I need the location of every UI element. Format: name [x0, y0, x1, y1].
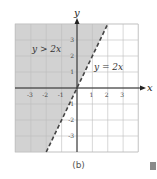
x-axis-label: x — [147, 82, 153, 93]
line-equation-label: y = 2x — [93, 62, 123, 72]
end-marker — [150, 162, 156, 170]
x-tick-label: 3 — [120, 91, 124, 98]
x-tick-label: -2 — [42, 91, 48, 98]
figure-caption: (b) — [0, 160, 157, 170]
x-tick-label: 2 — [105, 91, 109, 98]
y-axis-arrow-icon — [75, 18, 80, 24]
y-tick-label: 3 — [70, 36, 74, 43]
y-tick-label: 2 — [70, 52, 74, 59]
x-tick-label: 1 — [89, 91, 93, 98]
y-tick-label: 1 — [70, 68, 74, 75]
y-tick-label: -1 — [68, 100, 74, 107]
x-axis-arrow-icon — [140, 86, 146, 91]
inequality-label: y > 2x — [31, 44, 61, 54]
y-tick-label: -2 — [68, 116, 74, 123]
inequality-graph: -3-2-1123 321-1-2-3 x y y > 2x y = 2x — [0, 0, 157, 179]
y-tick-label: -3 — [68, 132, 74, 139]
x-tick-label: -1 — [58, 91, 64, 98]
x-tick-label: -3 — [27, 91, 33, 98]
y-axis-label: y — [73, 7, 80, 18]
